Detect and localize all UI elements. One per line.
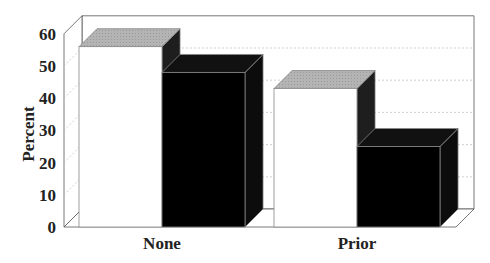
y-tick-label: 10 [39,186,56,205]
x-axis: NonePrior [143,234,377,253]
y-tick-label: 50 [39,57,56,76]
bar [357,129,458,228]
bar-chart: 0102030405060 NonePrior Percent [0,0,490,263]
bar [162,54,263,227]
y-axis-label: Percent [19,106,38,162]
y-tick-label: 60 [39,25,56,44]
y-tick-label: 20 [39,154,56,173]
y-tick-label: 40 [39,89,56,108]
x-category-label: Prior [338,234,377,253]
y-tick-label: 0 [48,218,57,237]
y-axis: 0102030405060 [39,25,56,237]
y-tick-label: 30 [39,121,56,140]
x-category-label: None [143,234,181,253]
